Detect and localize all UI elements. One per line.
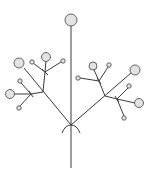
left-upper-bud-a-node <box>30 60 34 64</box>
branch-edge <box>20 94 31 106</box>
branch-edge <box>117 88 128 99</box>
branch-edge <box>117 99 135 103</box>
right-upper-flower-node <box>89 62 97 70</box>
bract-mark <box>71 125 80 133</box>
right-lower-bud-b-node <box>122 116 126 120</box>
branch-edge <box>99 67 108 81</box>
branch-edge <box>45 62 61 72</box>
left-upper-bud-b-node <box>61 59 65 63</box>
left-lower-bud-a-node <box>18 79 22 83</box>
branch-edge <box>45 61 46 72</box>
branch-edge <box>117 99 124 116</box>
branch-edge <box>43 72 45 92</box>
flower-nodes <box>6 14 144 120</box>
left-lower-flower-node <box>6 90 15 99</box>
branch-edge <box>80 78 99 81</box>
terminal-flower-node <box>65 14 77 26</box>
inflorescence-diagram <box>0 0 150 193</box>
left-lower-bud-b-node <box>17 106 21 110</box>
bracts <box>29 69 119 133</box>
right-lower-bud-a-node <box>127 84 131 88</box>
branch-edge <box>31 92 43 94</box>
left-primary-flower-node <box>14 58 24 68</box>
right-upper-bud-a-node <box>107 63 111 67</box>
right-upper-bud-b-node <box>76 76 80 80</box>
left-upper-flower-node <box>42 53 51 62</box>
branch-edges <box>14 61 135 125</box>
right-primary-flower-node <box>130 65 140 75</box>
branch-edge <box>24 68 71 125</box>
right-lower-flower-node <box>135 99 144 108</box>
bract-mark <box>62 125 71 133</box>
